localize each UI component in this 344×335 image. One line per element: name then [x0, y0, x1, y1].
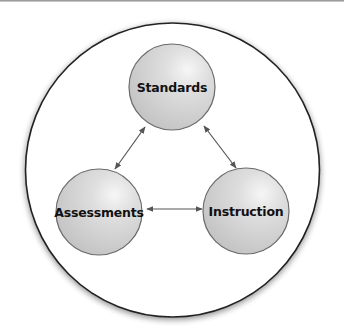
cycle-diagram: Standards Assessments Instruction: [0, 0, 344, 335]
node-standards-label: Standards: [137, 80, 207, 95]
node-instruction: Instruction: [203, 168, 289, 254]
node-assessments-label: Assessments: [54, 205, 144, 220]
node-assessments: Assessments: [54, 169, 144, 255]
node-standards: Standards: [129, 44, 215, 130]
node-instruction-label: Instruction: [209, 204, 284, 219]
